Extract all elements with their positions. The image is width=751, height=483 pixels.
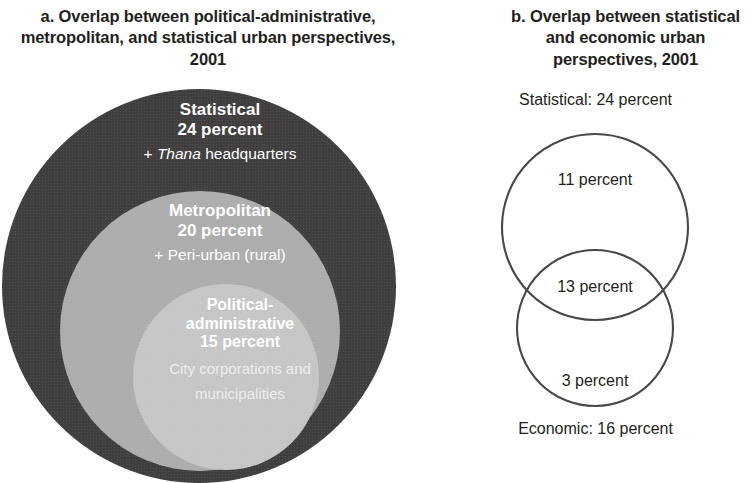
political-note-line1: City corporations and xyxy=(20,360,460,377)
statistical-heading: Statistical xyxy=(0,100,440,120)
metropolitan-note: + Peri-urban (rural) xyxy=(0,246,440,264)
panel-a-title: a. Overlap between political-administrat… xyxy=(18,6,398,70)
political-heading-line2: administrative xyxy=(20,315,460,334)
political-heading-line1: Political- xyxy=(20,296,460,315)
metropolitan-heading: Metropolitan xyxy=(0,201,440,221)
political-value: 15 percent xyxy=(20,333,460,352)
statistical-note-prefix: + xyxy=(144,145,157,162)
statistical-note-italic: Thana xyxy=(157,145,201,162)
venn-label-overlap: 13 percent xyxy=(557,278,633,295)
statistical-note: + Thana headquarters xyxy=(0,145,440,163)
statistical-note-suffix: headquarters xyxy=(201,145,297,162)
label-political-administrative: Political- administrative 15 percent Cit… xyxy=(20,296,460,402)
venn-label-statistical-only: 11 percent xyxy=(558,171,633,188)
venn-label-economic-only: 3 percent xyxy=(562,372,629,389)
venn-caption-economic: Economic: 16 percent xyxy=(440,420,751,438)
statistical-value: 24 percent xyxy=(0,120,440,140)
panel-b-venn: b. Overlap between statistical and econo… xyxy=(440,0,751,471)
label-metropolitan: Metropolitan 20 percent + Peri-urban (ru… xyxy=(0,201,440,264)
panel-a-nested-circles: a. Overlap between political-administrat… xyxy=(0,0,440,471)
metropolitan-value: 20 percent xyxy=(0,221,440,241)
political-note-line2: municipalities xyxy=(20,385,460,402)
venn-diagram: 11 percent 13 percent 3 percent xyxy=(440,0,751,471)
label-statistical: Statistical 24 percent + Thana headquart… xyxy=(0,100,440,163)
